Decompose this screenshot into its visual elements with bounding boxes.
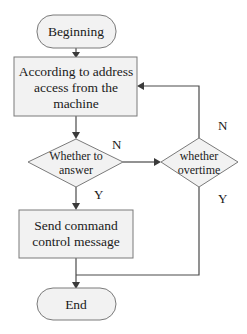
access-label-line-2: access from the [34, 80, 118, 95]
send-label-line-1: Send command [34, 218, 118, 233]
end-label: End [65, 297, 87, 312]
arrowhead-icon [137, 82, 144, 90]
overtime-yes-label: Y [218, 191, 228, 206]
send-process-box: Send command control message [19, 210, 133, 258]
overtime-label-line-1: whether [180, 149, 219, 163]
edge-overtime-to-access [143, 86, 199, 138]
overtime-decision: whether overtime [161, 138, 238, 187]
overtime-label-line-2: overtime [178, 163, 221, 177]
access-process-box: According to address access from the mac… [14, 57, 137, 116]
access-label-line-1: According to address [19, 64, 134, 79]
answer-no-label: N [112, 137, 122, 152]
answer-label-line-1: Whether to [49, 149, 103, 163]
answer-decision: Whether to answer [28, 139, 123, 187]
start-label: Beginning [48, 24, 104, 39]
arrowhead-icon [154, 158, 161, 166]
arrowhead-icon [72, 203, 80, 210]
end-terminal: End [37, 288, 116, 320]
answer-label-line-2: answer [59, 163, 93, 177]
send-label-line-2: control message [32, 234, 119, 249]
access-label-line-3: machine [53, 96, 99, 111]
overtime-no-label: N [218, 118, 228, 133]
flowchart: Beginning According to address access fr… [0, 0, 247, 334]
arrowhead-icon [72, 132, 80, 139]
start-terminal: Beginning [37, 15, 116, 48]
answer-yes-label: Y [94, 187, 104, 202]
